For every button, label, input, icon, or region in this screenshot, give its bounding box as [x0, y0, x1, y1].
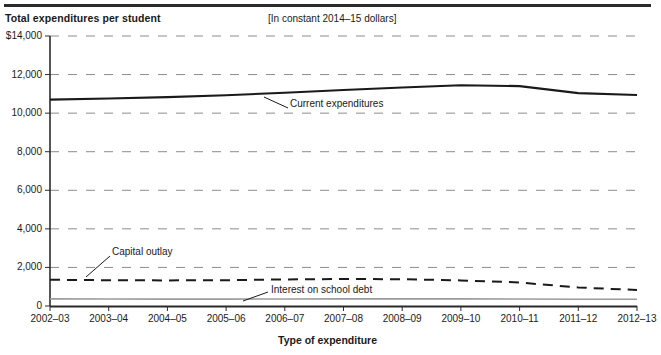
y-tick-label: 0 — [0, 301, 42, 311]
x-tick-label: 2012–13 — [602, 314, 661, 324]
series-annotation-label: Capital outlay — [112, 247, 173, 257]
y-tick-label: 6,000 — [0, 185, 42, 195]
series-annotation-label: Current expenditures — [290, 99, 383, 109]
gridlines — [50, 36, 637, 267]
axis-lines — [50, 36, 637, 307]
annotation-leader-lines — [86, 97, 288, 301]
y-tick-label: $14,000 — [0, 31, 42, 41]
y-tick-label: 2,000 — [0, 262, 42, 272]
x-axis-title: Type of expenditure — [0, 334, 655, 346]
y-tick-label: 8,000 — [0, 147, 42, 157]
y-tick-label: 12,000 — [0, 70, 42, 80]
series-annotation-label: Interest on school debt — [271, 285, 372, 295]
y-tick-label: 4,000 — [0, 224, 42, 234]
y-tick-label: 10,000 — [0, 108, 42, 118]
